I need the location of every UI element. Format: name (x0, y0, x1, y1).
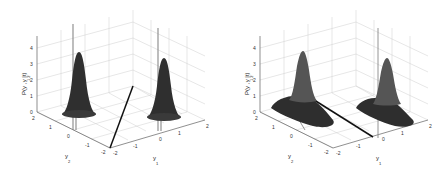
svg-text:4: 4 (30, 45, 33, 51)
distribution-2-peak (373, 58, 401, 106)
left-plot-canvas: 0 1 2 3 4 2 1 0 -1 -2 -2 -1 0 1 2 P(y 1 … (0, 0, 223, 173)
left-surface-plot: 0 1 2 3 4 2 1 0 -1 -2 -2 -1 0 1 2 P(y 1 … (0, 0, 223, 173)
svg-text:0: 0 (290, 133, 293, 139)
svg-text:2: 2 (291, 159, 294, 164)
svg-text:-1: -1 (133, 143, 138, 149)
svg-text:3: 3 (30, 61, 33, 67)
svg-text:1: 1 (272, 124, 275, 130)
z-axis-label: P(y 1 2 ,y |t) (244, 72, 254, 95)
svg-text:-2: -2 (336, 150, 341, 156)
svg-text:-2: -2 (101, 149, 106, 155)
svg-text:,y |t): ,y |t) (21, 72, 27, 84)
peak-2 (147, 58, 181, 118)
y2-axis-label: y 2 (65, 153, 71, 164)
svg-text:2: 2 (429, 123, 432, 129)
svg-text:1: 1 (30, 93, 33, 99)
z-axis-label: P(y 1 2 ,y |t) (21, 72, 31, 95)
svg-text:4: 4 (253, 45, 256, 51)
svg-text:1: 1 (401, 130, 404, 136)
svg-text:2: 2 (255, 115, 258, 121)
right-surface-plot: 0 1 2 3 4 2 1 0 -1 -2 -2 -1 0 1 2 P(y 1 … (223, 0, 446, 173)
svg-text:2: 2 (206, 123, 209, 129)
svg-text:0: 0 (159, 136, 162, 142)
right-plot-canvas: 0 1 2 3 4 2 1 0 -1 -2 -2 -1 0 1 2 P(y 1 … (223, 0, 446, 173)
svg-text:1: 1 (156, 161, 159, 166)
svg-text:-2: -2 (113, 150, 118, 156)
peak-1 (62, 52, 96, 115)
svg-text:,y |t): ,y |t) (244, 72, 250, 84)
svg-text:0: 0 (382, 136, 385, 142)
svg-text:0: 0 (67, 133, 70, 139)
svg-text:1: 1 (253, 93, 256, 99)
svg-text:-1: -1 (308, 142, 313, 148)
y1-axis-label: y 1 (376, 155, 382, 166)
svg-text:1: 1 (49, 124, 52, 130)
svg-text:-1: -1 (356, 143, 361, 149)
svg-text:P(y: P(y (21, 86, 27, 95)
svg-text:P(y: P(y (244, 86, 250, 95)
y2-axis-label: y 2 (288, 153, 294, 164)
svg-text:1: 1 (379, 161, 382, 166)
svg-text:-2: -2 (324, 149, 329, 155)
svg-text:-1: -1 (85, 142, 90, 148)
y2-axis-ticks: 2 1 0 -1 -2 (32, 115, 106, 155)
peak-2-base (147, 113, 181, 121)
y1-axis-label: y 1 (153, 155, 159, 166)
peak-1-base (62, 110, 96, 118)
svg-text:2: 2 (68, 159, 71, 164)
svg-text:3: 3 (253, 61, 256, 67)
svg-text:1: 1 (178, 130, 181, 136)
svg-text:2: 2 (32, 115, 35, 121)
distribution-1-peak (289, 51, 317, 102)
